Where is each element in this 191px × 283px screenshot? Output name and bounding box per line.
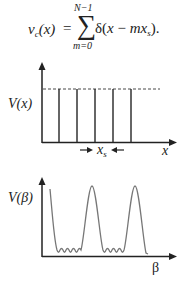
- x-axis-label: x: [162, 143, 168, 159]
- spacing-label: xs: [97, 142, 107, 159]
- impulse-train-chart: V(x) x xs V(β) β: [0, 0, 191, 283]
- beta-y-axis-arrow-icon: [39, 177, 46, 185]
- impulse-train-plot: [0, 0, 191, 283]
- right-arrow-icon: [87, 147, 93, 153]
- y-axis-label-vx: V(x): [8, 96, 32, 112]
- beta-axis-label: β: [152, 260, 159, 276]
- y-axis-label-vbeta: V(β): [8, 190, 33, 206]
- left-arrow-icon: [111, 147, 117, 153]
- x-axis-arrow-icon: [169, 139, 177, 146]
- array-factor-curve: [50, 186, 148, 254]
- impulses: [59, 89, 131, 142]
- beta-x-axis-arrow-icon: [169, 253, 177, 260]
- y-axis-arrow-icon: [39, 62, 46, 70]
